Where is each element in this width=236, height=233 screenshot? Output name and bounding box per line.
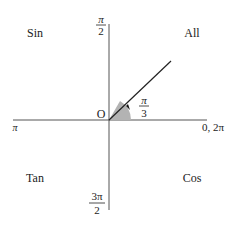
pi-over-3-denominator: 3 (141, 107, 147, 119)
3pi-over-2-numerator: 3π (91, 190, 103, 202)
quadrant-diagram: Sin All Tan Cos π 2 3π 2 π 0, 2π O π 3 (0, 0, 236, 233)
quadrant-label-sin: Sin (27, 26, 43, 40)
angle-label-pi-over-3: π 3 (139, 94, 149, 119)
pi-over-3-numerator: π (141, 94, 147, 106)
pi-over-2-numerator: π (98, 13, 104, 25)
pi-over-2-denominator: 2 (98, 25, 104, 37)
quadrant-label-cos: Cos (183, 171, 202, 185)
axis-label-3pi-over-2: 3π 2 (89, 190, 105, 216)
quadrant-label-tan: Tan (26, 171, 44, 185)
axis-label-pi: π (12, 122, 18, 133)
axis-label-0-2pi: 0, 2π (202, 121, 225, 133)
3pi-over-2-denominator: 2 (94, 204, 100, 216)
quadrant-label-all: All (184, 26, 200, 40)
terminal-ray (109, 61, 171, 120)
axis-label-pi-over-2: π 2 (96, 13, 106, 37)
origin-label: O (97, 107, 106, 121)
